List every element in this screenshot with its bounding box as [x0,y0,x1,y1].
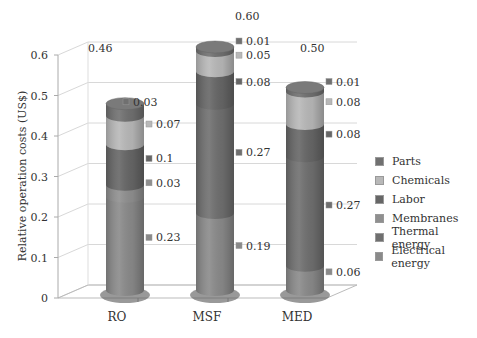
legend-label: Labor [392,193,425,206]
label-swatch-icon [146,155,152,161]
data-label: 0.27 [336,199,361,212]
legend-label: Membranes [392,212,458,225]
legend-swatch-icon [375,176,384,185]
legend-label: Parts [392,155,421,168]
label-swatch-icon [236,52,242,58]
y-tick-label: 0.5 [31,90,49,103]
data-label: 0.03 [133,96,158,109]
x-category-label: MED [282,310,313,324]
x-category-label: MSF [193,310,222,324]
legend-item: Electrical energy [375,247,477,266]
cylinder-ro [100,98,150,303]
label-swatch-icon [236,38,242,44]
data-label: 0.08 [336,128,361,141]
label-swatch-icon [326,131,332,137]
data-label: 0.27 [246,146,271,159]
data-label: 0.19 [246,240,271,253]
total-label: 0.50 [300,42,325,55]
legend-label: Electrical energy [391,244,477,270]
y-axis-label: Relative operation costs (US$) [16,91,29,262]
y-tick-label: 0.4 [31,130,49,143]
label-swatch-icon [123,99,129,105]
cylinder-top [196,41,234,53]
data-label: 0.08 [246,76,271,89]
y-tick-label: 0.6 [31,49,49,62]
y-tick-label: 0.3 [31,171,49,184]
legend-swatch-icon [375,214,384,223]
legend-item: Labor [375,190,477,209]
data-label: 0.05 [246,49,271,62]
label-swatch-icon [236,149,242,155]
label-swatch-icon [326,79,332,85]
total-label: 0.60 [235,10,260,23]
legend: PartsChemicalsLaborMembranesThermal ener… [375,152,477,266]
data-label: 0.23 [156,231,181,244]
legend-swatch-icon [375,252,383,261]
data-label: 0.08 [336,96,361,109]
cylinder-top [286,82,324,94]
y-tick-label: 0.2 [31,211,49,224]
label-swatch-icon [326,269,332,275]
data-label: 0.01 [246,35,271,48]
cylinder-med [280,82,330,304]
label-swatch-icon [146,234,152,240]
legend-item: Chemicals [375,171,477,190]
y-tick-label: 0 [41,292,48,305]
data-label: 0.01 [336,76,361,89]
total-label: 0.46 [88,42,113,55]
label-swatch-icon [326,202,332,208]
y-tick-label: 0.1 [31,252,49,265]
data-label: 0.07 [156,118,181,131]
label-swatch-icon [146,180,152,186]
legend-swatch-icon [375,195,384,204]
label-swatch-icon [236,243,242,249]
bars [100,41,330,303]
legend-swatch-icon [375,233,384,242]
cylinder-msf [190,41,240,303]
label-swatch-icon [326,99,332,105]
legend-label: Chemicals [392,174,450,187]
label-swatch-icon [236,79,242,85]
data-label: 0.1 [156,152,174,165]
data-label: 0.03 [156,177,181,190]
legend-item: Parts [375,152,477,171]
label-swatch-icon [146,121,152,127]
x-category-label: RO [108,310,127,324]
legend-swatch-icon [375,157,384,166]
data-label: 0.06 [336,266,361,279]
